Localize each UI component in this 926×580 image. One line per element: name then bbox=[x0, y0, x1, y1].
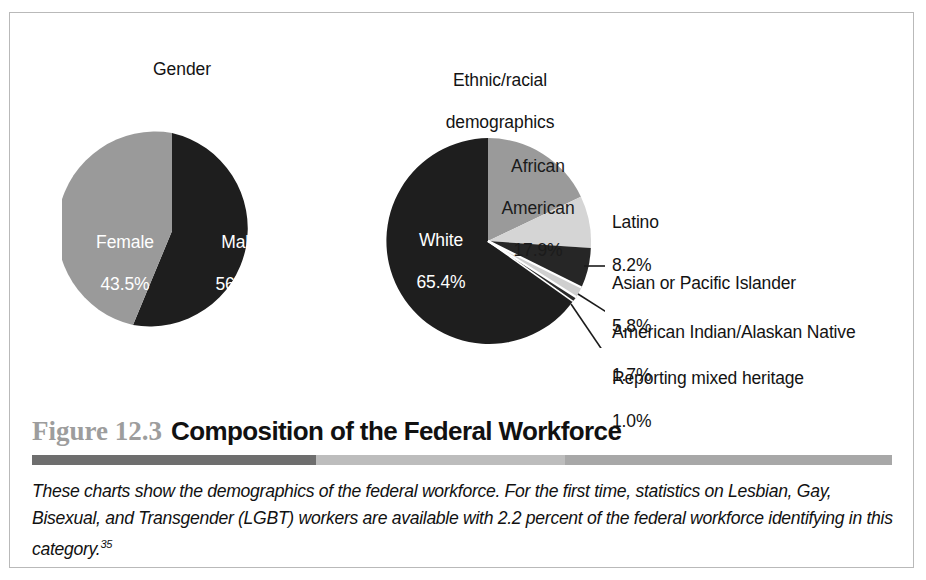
pie-callout-american-indian-name: American Indian/Alaskan Native bbox=[612, 322, 856, 344]
pie-callout-asian-name: Asian or Pacific Islander bbox=[612, 273, 796, 295]
chart-gender-title: Gender bbox=[92, 59, 272, 80]
pie-label-african-american-line2: American bbox=[482, 198, 594, 219]
pie-callout-mixed-heritage-name: Reporting mixed heritage bbox=[612, 368, 804, 390]
leader-line-mixed bbox=[571, 304, 605, 348]
figure-number: Figure 12.3 bbox=[32, 416, 162, 446]
pie-label-african-american-value: 17.9% bbox=[482, 240, 594, 261]
figure-title: Composition of the Federal Workforce bbox=[171, 416, 621, 446]
chart-ethnic-title-line1: Ethnic/racial bbox=[405, 70, 595, 91]
rule-segment-mid bbox=[316, 455, 565, 465]
pie-label-female-value: 43.5% bbox=[72, 274, 178, 295]
leader-line-american-indian bbox=[578, 294, 605, 313]
figure-caption-text: These charts show the demographics of th… bbox=[32, 478, 894, 562]
pie-label-white-value: 65.4% bbox=[386, 272, 496, 293]
pie-label-male-name: Male bbox=[192, 232, 288, 253]
pie-label-male-value: 56.5% bbox=[192, 274, 288, 295]
chart-ethnic-racial: Ethnic/racial demographics bbox=[350, 13, 915, 398]
pie-label-african-american: African American 17.9% bbox=[482, 135, 594, 282]
pie-label-white: White 65.4% bbox=[386, 209, 496, 314]
figure-caption-block: Figure 12.3Composition of the Federal Wo… bbox=[10, 398, 915, 569]
rule-segment-light bbox=[565, 455, 892, 465]
footnote-marker: 35 bbox=[100, 538, 112, 550]
rule-segment-dark bbox=[32, 455, 316, 465]
pie-callout-latino-name: Latino bbox=[612, 212, 659, 234]
pie-label-female: Female 43.5% bbox=[72, 211, 178, 316]
pie-label-african-american-line1: African bbox=[482, 156, 594, 177]
pie-label-female-name: Female bbox=[72, 232, 178, 253]
figure-frame: Gender Male 56.5% Female 43.5% Ethnic/ra… bbox=[9, 12, 914, 568]
chart-gender: Gender Male 56.5% Female 43.5% bbox=[10, 13, 350, 398]
pie-label-white-name: White bbox=[386, 230, 496, 251]
figure-heading: Figure 12.3Composition of the Federal Wo… bbox=[32, 416, 621, 447]
figure-caption-sentence: These charts show the demographics of th… bbox=[32, 481, 893, 559]
figure-rule-bar bbox=[32, 455, 892, 465]
charts-area: Gender Male 56.5% Female 43.5% Ethnic/ra… bbox=[10, 13, 915, 398]
pie-label-male: Male 56.5% bbox=[192, 211, 288, 316]
